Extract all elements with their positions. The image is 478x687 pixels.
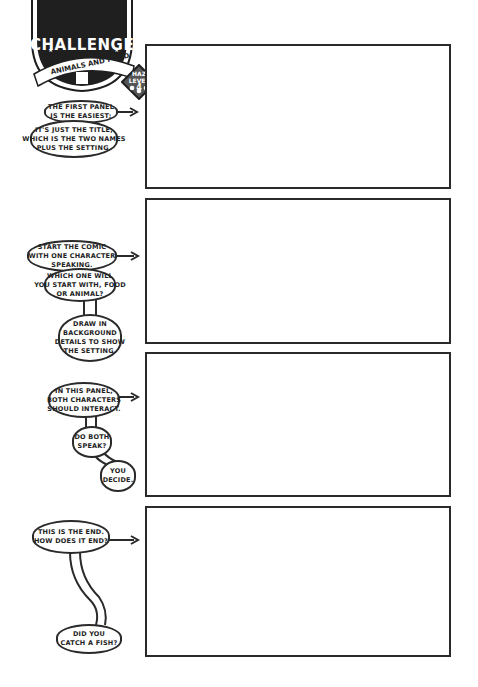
bubble-line: HOW DOES IT END? bbox=[34, 537, 108, 546]
bubble-line: DO BOTH bbox=[75, 433, 110, 442]
bubble-line: BACKGROUND bbox=[63, 329, 117, 338]
bubble-line: THE SETTING. bbox=[64, 347, 117, 356]
bubble-line: OR ANIMAL? bbox=[56, 290, 103, 299]
comic-panel-1[interactable] bbox=[145, 44, 451, 189]
tip-bubble-p3-c: YOU DECIDE. bbox=[100, 460, 136, 492]
haz-label: HAZ bbox=[132, 70, 146, 77]
bubble-line: BOTH CHARACTERS bbox=[47, 396, 121, 405]
comic-panel-4[interactable] bbox=[145, 506, 451, 657]
comic-panel-2[interactable] bbox=[145, 198, 451, 344]
bubble-line: DETAILS TO SHOW bbox=[55, 338, 125, 347]
bubble-line: THIS IS THE END. bbox=[38, 528, 104, 537]
tip-bubble-p3-a: IN THIS PANEL, BOTH CHARACTERS SHOULD IN… bbox=[48, 382, 120, 418]
badge-title: CHALLENGE bbox=[30, 36, 134, 54]
bubble-line: WHICH IS THE TWO NAMES bbox=[22, 135, 125, 144]
tip-bubble-p3-b: DO BOTH SPEAK? bbox=[72, 426, 112, 458]
tip-bubble-p4-a: THIS IS THE END. HOW DOES IT END? bbox=[32, 520, 110, 554]
bubble-line: START THE COMIC bbox=[38, 243, 107, 252]
bubble-line: DRAW IN bbox=[73, 320, 107, 329]
bubble-line: SHOULD INTERACT. bbox=[47, 405, 120, 414]
bubble-line: IN THIS PANEL, bbox=[55, 387, 113, 396]
tip-bubble-p2-a: START THE COMIC WITH ONE CHARACTER SPEAK… bbox=[27, 240, 117, 272]
bubble-line: PLUS THE SETTING. bbox=[37, 144, 112, 153]
tip-bubble-p2-b: WHICH ONE WILL YOU START WITH, FOOD OR A… bbox=[44, 268, 116, 302]
bubble-line: CATCH A FISH? bbox=[61, 639, 118, 648]
bubble-line: WITH ONE CHARACTER bbox=[29, 252, 116, 261]
bubble-line: IT'S JUST THE TITLE, bbox=[35, 126, 113, 135]
tip-bubble-p1-b: IT'S JUST THE TITLE, WHICH IS THE TWO NA… bbox=[30, 120, 118, 158]
tip-bubble-p2-c: DRAW IN BACKGROUND DETAILS TO SHOW THE S… bbox=[58, 314, 122, 362]
bubble-line: YOU bbox=[110, 467, 126, 476]
bubble-line: DID YOU bbox=[73, 630, 105, 639]
tip-bubble-p4-b: DID YOU CATCH A FISH? bbox=[56, 624, 122, 654]
bubble-line: WHICH ONE WILL bbox=[47, 272, 113, 281]
comic-panel-3[interactable] bbox=[145, 352, 451, 497]
bubble-line: SPEAK? bbox=[78, 442, 107, 451]
bubble-line: DECIDE. bbox=[103, 476, 134, 485]
bubble-line: THE FIRST PANEL bbox=[48, 103, 114, 112]
level-number: 4 bbox=[136, 83, 142, 92]
bubble-line: YOU START WITH, FOOD bbox=[34, 281, 126, 290]
